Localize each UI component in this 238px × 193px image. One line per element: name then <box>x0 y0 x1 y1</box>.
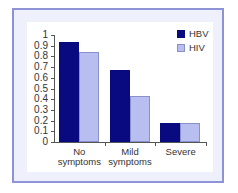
x-tick <box>105 142 106 146</box>
bar-hbv <box>160 123 180 142</box>
y-tick <box>51 67 55 68</box>
y-tick <box>51 110 55 111</box>
y-tick-label: 0.1 <box>28 126 48 136</box>
y-tick-label: 0.6 <box>28 73 48 83</box>
y-tick <box>51 56 55 57</box>
y-tick <box>51 78 55 79</box>
bar-hiv <box>180 123 200 142</box>
bar-hiv <box>79 52 99 142</box>
y-tick <box>51 89 55 90</box>
bar-hbv <box>110 70 130 142</box>
y-tick-label: 0.9 <box>28 41 48 51</box>
legend-item-hiv: HIV <box>177 43 205 53</box>
x-tick <box>206 142 207 146</box>
legend-swatch-hiv <box>177 44 185 52</box>
legend-label-hbv: HBV <box>189 28 209 39</box>
y-tick <box>51 142 55 143</box>
y-tick <box>51 121 55 122</box>
y-tick-label: 0.5 <box>28 84 48 94</box>
x-tick-label: Mildsymptoms <box>105 147 155 167</box>
x-tick <box>155 142 156 146</box>
bar-hbv <box>59 42 79 142</box>
y-tick-label: 1 <box>28 30 48 40</box>
x-axis <box>51 142 206 143</box>
bar-hiv <box>130 96 150 142</box>
y-tick <box>51 99 55 100</box>
x-tick-label: Severe <box>156 147 206 157</box>
legend-item-hbv: HBV <box>177 29 209 39</box>
legend-label-hiv: HIV <box>189 42 205 53</box>
y-tick <box>51 35 55 36</box>
y-tick <box>51 46 55 47</box>
y-tick-label: 0.2 <box>28 116 48 126</box>
y-tick <box>51 131 55 132</box>
legend-swatch-hbv <box>177 30 185 38</box>
y-tick-label: 0 <box>28 137 48 147</box>
y-tick-label: 0.7 <box>28 62 48 72</box>
y-tick-label: 0.3 <box>28 105 48 115</box>
y-tick-label: 0.4 <box>28 94 48 104</box>
x-tick-label: Nosymptoms <box>54 147 104 167</box>
y-tick-label: 0.8 <box>28 51 48 61</box>
